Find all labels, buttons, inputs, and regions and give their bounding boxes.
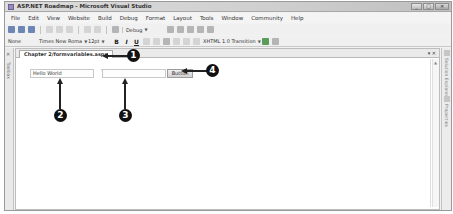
bold-button[interactable]: B: [113, 38, 120, 45]
arrowhead-icon: [181, 68, 187, 74]
title-bar: ASP.NET Roadmap - Microsoft Visual Studi…: [5, 2, 451, 12]
toolbar-separator: [40, 26, 41, 34]
font-name-value: Times New Roma: [39, 38, 82, 44]
toolbox-icon[interactable]: [207, 26, 214, 33]
callout-3: 3: [119, 109, 132, 122]
menu-edit[interactable]: Edit: [28, 15, 39, 21]
menu-debug[interactable]: Debug: [120, 15, 138, 21]
toolbox-label: Toolbox: [6, 62, 11, 79]
visual-studio-icon: [8, 4, 14, 10]
copy-icon[interactable]: [56, 26, 63, 33]
menu-window[interactable]: Window: [221, 15, 243, 21]
right-panel-tabs: Solution Explorer Properties: [441, 48, 451, 210]
solution-explorer-icon[interactable]: [177, 26, 184, 33]
maximize-button[interactable]: □: [423, 3, 434, 10]
visual-studio-window: ASP.NET Roadmap - Microsoft Visual Studi…: [4, 1, 452, 211]
callout-arrow-1: [108, 55, 128, 57]
menu-help[interactable]: Help: [291, 15, 304, 21]
textbox-empty[interactable]: [102, 69, 166, 78]
redo-icon[interactable]: [94, 26, 101, 33]
menu-bar: File Edit View Website Build Debug Forma…: [5, 13, 451, 23]
minimize-button[interactable]: _: [411, 3, 422, 10]
solution-explorer-tab-icon[interactable]: [444, 50, 450, 56]
block-format-dropdown[interactable]: None: [8, 38, 36, 44]
properties-tab[interactable]: Properties: [444, 104, 449, 127]
menu-website[interactable]: Website: [68, 15, 90, 21]
menu-format[interactable]: Format: [146, 15, 165, 21]
standard-toolbar: Debug ▼: [5, 24, 451, 35]
properties-icon[interactable]: [187, 26, 194, 33]
undo-icon[interactable]: [84, 26, 91, 33]
chevron-down-icon: ▼: [102, 39, 105, 44]
textbox-hello-world[interactable]: Hello World: [30, 69, 94, 78]
chevron-down-icon: ▼: [144, 27, 147, 32]
target-schema-dropdown[interactable]: XHTML 1.0 Transition ▼: [203, 38, 259, 44]
solution-explorer-tab[interactable]: Solution Explorer: [444, 58, 449, 97]
highlight-icon[interactable]: [153, 38, 160, 45]
check-accessibility-icon[interactable]: [262, 38, 269, 45]
cut-icon[interactable]: [46, 26, 53, 33]
menu-build[interactable]: Build: [98, 15, 112, 21]
toolbar-separator: [106, 26, 107, 34]
solution-configuration-value: Debug: [126, 27, 142, 33]
font-size-value: 12pt: [88, 38, 100, 44]
paste-icon[interactable]: [66, 26, 73, 33]
document-tab[interactable]: Chapter 2/formvariables.aspx: [19, 50, 113, 58]
tab-controls[interactable]: ▾ ✕: [428, 50, 436, 56]
menu-view[interactable]: View: [47, 15, 60, 21]
new-project-icon[interactable]: [8, 26, 15, 33]
solution-configuration-dropdown[interactable]: Debug ▼: [122, 27, 164, 33]
close-button[interactable]: ✕: [435, 3, 449, 10]
save-all-icon[interactable]: [28, 26, 35, 33]
toolbox-panel-tab[interactable]: ✕ Toolbox: [5, 48, 14, 210]
callout-2: 2: [54, 109, 67, 122]
window-controls: _ □ ✕: [411, 3, 449, 10]
pin-icon[interactable]: ✕: [6, 51, 10, 57]
arrowhead-icon: [102, 53, 108, 59]
design-surface[interactable]: Hello World ▫ Button: [18, 59, 431, 207]
font-color-icon[interactable]: [143, 38, 150, 45]
numbered-list-icon[interactable]: [173, 38, 180, 45]
arrowhead-icon: [122, 78, 128, 84]
menu-file[interactable]: File: [11, 15, 20, 21]
arrowhead-icon: [57, 78, 63, 84]
find-icon[interactable]: [167, 26, 174, 33]
object-browser-icon[interactable]: [197, 26, 204, 33]
window-title: ASP.NET Roadmap - Microsoft Visual Studi…: [17, 3, 151, 9]
scroll-up-icon[interactable]: ▲: [434, 60, 437, 65]
menu-layout[interactable]: Layout: [173, 15, 192, 21]
callout-arrow-4: [187, 70, 207, 72]
chevron-down-icon: ▼: [84, 39, 87, 44]
underline-button[interactable]: U: [133, 38, 140, 45]
callout-arrow-3: [124, 83, 126, 109]
block-format-value: None: [8, 38, 21, 44]
callout-1: 1: [127, 49, 140, 62]
font-size-dropdown[interactable]: 12pt ▼: [88, 38, 110, 44]
italic-button[interactable]: I: [123, 38, 130, 45]
align-icon[interactable]: [163, 38, 170, 45]
callout-4: 4: [206, 64, 219, 77]
start-debugging-icon[interactable]: [112, 26, 119, 33]
document-area: Chapter 2/formvariables.aspx ▾ ✕ Hello W…: [15, 48, 440, 210]
vertical-scrollbar[interactable]: ▲: [432, 59, 439, 207]
document-tab-strip: Chapter 2/formvariables.aspx ▾ ✕: [16, 49, 439, 58]
validate-icon[interactable]: [272, 38, 279, 45]
indent-icon[interactable]: [193, 38, 200, 45]
toolbar-separator: [78, 26, 79, 34]
menu-community[interactable]: Community: [251, 15, 283, 21]
callout-arrow-2: [59, 83, 61, 109]
target-schema-value: XHTML 1.0 Transition: [203, 38, 256, 44]
menu-tools[interactable]: Tools: [200, 15, 214, 21]
save-icon[interactable]: [18, 26, 25, 33]
formatting-toolbar: None Times New Roma ▼ 12pt ▼ B I U XHTML…: [5, 36, 451, 47]
bulleted-list-icon[interactable]: [183, 38, 190, 45]
properties-tab-icon[interactable]: [444, 96, 450, 102]
font-name-dropdown[interactable]: Times New Roma ▼: [39, 38, 85, 44]
chevron-down-icon: ▼: [258, 39, 261, 44]
